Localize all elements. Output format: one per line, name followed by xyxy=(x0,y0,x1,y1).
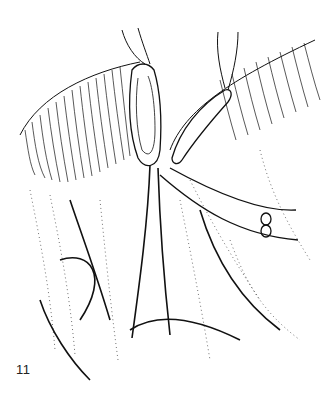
suture-thread-lower xyxy=(160,175,298,240)
mesentery-vessels xyxy=(40,165,280,380)
left-segment xyxy=(130,64,161,166)
figure-number: 11 xyxy=(16,362,31,377)
stay-suture-left xyxy=(122,28,150,64)
right-segment xyxy=(172,90,231,164)
surgical-illustration: 11 xyxy=(0,0,330,393)
right-bowel-outline xyxy=(170,40,315,150)
illustration-drawing xyxy=(0,0,330,393)
left-bowel-hatching xyxy=(25,67,130,182)
suture-thread-upper xyxy=(170,168,296,210)
left-lumen xyxy=(136,76,155,154)
left-bowel-outline xyxy=(20,62,140,135)
suture-knot-upper xyxy=(261,213,271,225)
right-bowel-hatching xyxy=(220,43,320,140)
